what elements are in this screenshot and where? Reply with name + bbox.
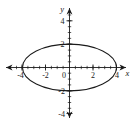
y-tick-label-4: 4	[61, 17, 65, 26]
axes-group	[6, 8, 126, 118]
y-axis-label: y	[59, 4, 64, 14]
y-tick-label-neg2: -2	[58, 87, 65, 96]
x-axis-label: x	[125, 68, 130, 78]
x-tick-label-4: 4	[115, 71, 119, 80]
x-tick-label-2: 2	[91, 71, 95, 80]
y-tick-label-neg4: -4	[58, 110, 65, 119]
ellipse-graph-figure: -4 -2 0 2 4 4 2 -2 -4 y x	[0, 0, 135, 125]
y-tick-label-2: 2	[61, 40, 65, 49]
x-tick-label-neg4: -4	[17, 71, 24, 80]
x-tick-label-neg2: -2	[42, 71, 49, 80]
coordinate-plane-plot: -4 -2 0 2 4 4 2 -2 -4 y x	[0, 0, 135, 125]
x-tick-label-0: 0	[62, 71, 66, 80]
